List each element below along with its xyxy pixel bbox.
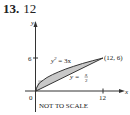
x-axis-label: x <box>124 88 129 96</box>
x-tick-label: 12 <box>99 94 107 102</box>
y-tick-label: 6 <box>28 55 32 63</box>
line-label: y = <box>69 73 80 81</box>
not-to-scale-note: NOT TO SCALE <box>39 102 88 110</box>
line-label-numerator: x <box>84 72 88 77</box>
point-label: (12, 6) <box>104 54 123 62</box>
area-chart: y x 0 12 6 y2 = 3x y = x 2 (12, 6) NOT T… <box>0 0 130 115</box>
origin-label: 0 <box>29 94 33 102</box>
line-label-denominator: 2 <box>85 78 88 83</box>
parabola-label: y2 = 3x <box>50 56 72 65</box>
